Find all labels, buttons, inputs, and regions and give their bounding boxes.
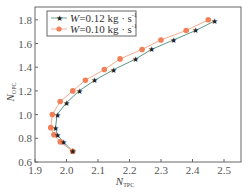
x-tick-label: 2.3 <box>154 164 168 176</box>
x-tick-label: 2.2 <box>123 164 137 176</box>
y-tick-label: 0.8 <box>18 132 32 144</box>
data-point: ★ <box>110 66 117 75</box>
data-point: ★ <box>132 55 139 64</box>
legend: ★ W=0.12 kg · s-1 W=0.10 kg · s-1 <box>47 11 137 36</box>
y-tick-label: 1.8 <box>18 14 32 26</box>
data-point: ★ <box>148 45 155 54</box>
data-point: ★ <box>91 76 98 85</box>
svg-text:W=0.10 kg · s-1: W=0.10 kg · s-1 <box>70 23 137 35</box>
data-point <box>83 77 89 83</box>
y-tick-label: 0.6 <box>18 156 32 168</box>
x-tick-label: 2.1 <box>91 164 105 176</box>
data-point: ★ <box>52 124 59 133</box>
y-tick-label: 1.0 <box>18 109 32 121</box>
circle-marker-icon <box>56 26 61 31</box>
chart: 1.92.02.12.22.32.42.5 0.60.81.01.21.41.6… <box>0 0 250 193</box>
data-point: ★ <box>76 87 83 96</box>
data-point: ★ <box>69 147 76 156</box>
data-point <box>158 37 164 43</box>
data-point <box>117 56 123 62</box>
x-tick-label: 2.5 <box>217 164 231 176</box>
data-point <box>139 47 145 53</box>
data-point: ★ <box>54 111 61 120</box>
y-tick-label: 1.2 <box>18 85 32 97</box>
data-point <box>183 28 189 34</box>
star-marker-icon: ★ <box>56 14 63 23</box>
data-point: ★ <box>60 138 67 147</box>
y-tick-label: 1.6 <box>18 38 32 50</box>
y-axis-label: NOPC <box>4 82 17 102</box>
data-point <box>102 67 108 73</box>
y-tick-label: 1.4 <box>18 61 32 73</box>
x-tick-label: 2.4 <box>186 164 200 176</box>
x-axis-label: NTPC <box>115 175 134 188</box>
data-point: ★ <box>192 26 199 35</box>
data-point: ★ <box>63 99 70 108</box>
data-point: ★ <box>170 36 177 45</box>
legend-label-1: =0.10 kg · s <box>79 23 132 35</box>
x-tick-label: 2.0 <box>60 164 74 176</box>
data-point: ★ <box>211 17 218 26</box>
